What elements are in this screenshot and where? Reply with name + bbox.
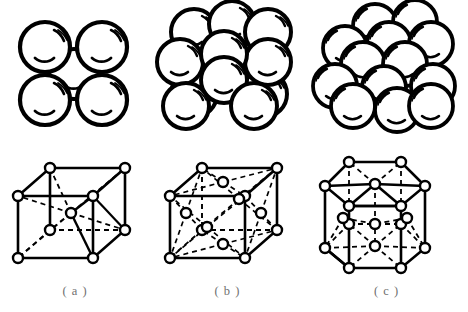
lattice-node-face-center (234, 194, 244, 204)
lattice-node (344, 263, 354, 273)
sphere-hcp-front-3 (409, 84, 453, 128)
sphere-hcp-front-1 (331, 84, 375, 128)
sphere-fcc-front-bottom-left (163, 83, 209, 129)
lattice-node (45, 225, 55, 235)
lattice-node (396, 263, 406, 273)
panel-caption-b: ( b ) (150, 284, 305, 299)
panel-caption-a: ( a ) (0, 284, 150, 299)
lattice-node-midplane (370, 219, 380, 229)
lattice-node-face-center (256, 208, 266, 218)
lattice-node (320, 181, 330, 191)
hcp-sphere-packing-model (305, 2, 468, 142)
lattice-node-face-center (218, 177, 228, 187)
lattice-node (320, 243, 330, 253)
lattice-node (344, 201, 354, 211)
lattice-node (420, 181, 430, 191)
sphere-bcc-corner-br (77, 75, 127, 125)
fcc-sphere-packing-model (150, 2, 305, 142)
lattice-node (420, 243, 430, 253)
lattice-node (165, 191, 175, 201)
panel-a: ( a ) (0, 0, 150, 312)
lattice-node-hex-center (370, 241, 380, 251)
crystal-structure-figure: ( a ) (0, 0, 468, 312)
lattice-node (120, 225, 130, 235)
hcp-unit-cell-diagram (305, 140, 468, 285)
bcc-solid-diagonals (18, 196, 125, 258)
panel-c: ( c ) (305, 0, 468, 312)
lattice-node-midplane (402, 213, 412, 223)
sphere-fcc-right-face (245, 39, 291, 85)
bcc-unit-cell-diagram (0, 140, 150, 285)
lattice-node (120, 163, 130, 173)
bcc-sphere-packing-model (0, 2, 150, 142)
lattice-node (165, 253, 175, 263)
lattice-node (13, 253, 23, 263)
sphere-bcc-corner-tr (77, 22, 127, 72)
sphere-bcc-corner-tl (20, 22, 70, 72)
lattice-node (88, 253, 98, 263)
lattice-node-hex-center (370, 179, 380, 189)
lattice-node (272, 225, 282, 235)
lattice-node (272, 163, 282, 173)
lattice-node-body-center (66, 208, 76, 218)
sphere-fcc-left-face (157, 39, 203, 85)
lattice-node (197, 163, 207, 173)
lattice-node (344, 157, 354, 167)
lattice-node-midplane (338, 213, 348, 223)
panel-caption-c: ( c ) (305, 284, 468, 299)
lattice-node (13, 191, 23, 201)
sphere-bcc-corner-bl (20, 75, 70, 125)
lattice-node (240, 253, 250, 263)
lattice-node (45, 163, 55, 173)
lattice-node-face-center (181, 208, 191, 218)
sphere-fcc-front-bottom-right (231, 83, 277, 129)
lattice-node-face-center (218, 239, 228, 249)
lattice-node (88, 191, 98, 201)
lattice-node (396, 157, 406, 167)
lattice-node-face-center (202, 222, 212, 232)
panel-b: ( b ) (150, 0, 305, 312)
lattice-node (396, 201, 406, 211)
fcc-unit-cell-diagram (150, 140, 305, 285)
